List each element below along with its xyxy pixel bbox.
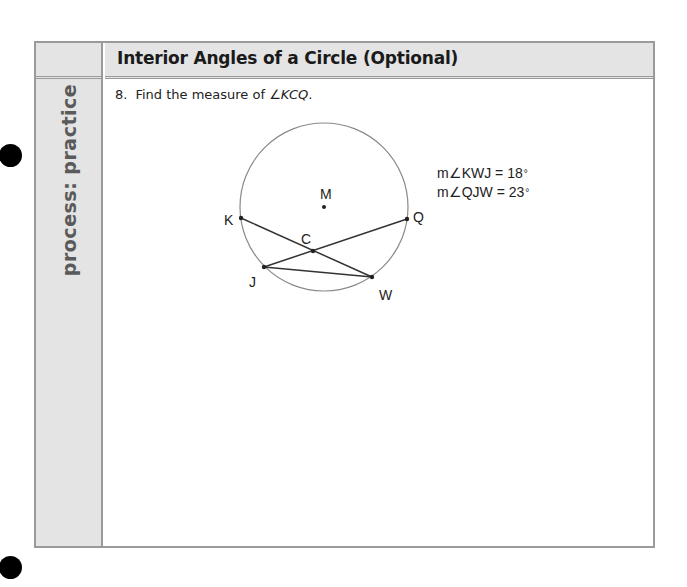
equals-sign: = <box>491 165 507 181</box>
degree-symbol: ° <box>524 168 528 179</box>
question-angle-name: KCQ <box>281 87 309 102</box>
angle-value: 18 <box>507 165 523 181</box>
degree-symbol: ° <box>525 187 529 198</box>
given-kwj: m∠KWJ = 18° <box>437 164 529 183</box>
given-qjw: m∠QJW = 23° <box>437 183 529 202</box>
worksheet-header: Interior Angles of a Circle (Optional) <box>105 43 653 79</box>
section-sidebar: process: practice <box>36 43 103 546</box>
question-terminal: . <box>308 87 312 102</box>
section-label: process: practice <box>58 84 80 276</box>
angle-name: QJW <box>462 184 493 200</box>
angle-symbol: ∠ <box>269 87 281 102</box>
angle-name: KWJ <box>462 165 492 181</box>
worksheet-frame: process: practice Interior Angles of a C… <box>34 41 655 548</box>
binder-hole-top <box>0 144 22 167</box>
binder-hole-bottom <box>0 556 22 579</box>
measure-prefix: m∠ <box>437 165 462 181</box>
question-8: 8.Find the measure of ∠KCQ. <box>115 87 312 102</box>
given-measures: m∠KWJ = 18° m∠QJW = 23° <box>437 164 529 202</box>
sidebar-header-cell <box>36 43 101 79</box>
measure-prefix: m∠ <box>437 184 462 200</box>
page-title: Interior Angles of a Circle (Optional) <box>117 48 458 68</box>
angle-value: 23 <box>509 184 525 200</box>
equals-sign: = <box>493 184 509 200</box>
question-number: 8. <box>115 87 127 102</box>
question-prompt: Find the measure of <box>135 87 269 102</box>
worksheet-body: 8.Find the measure of ∠KCQ. <box>105 79 653 546</box>
